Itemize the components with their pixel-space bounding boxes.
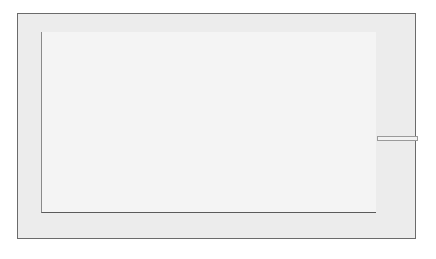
chart-frame (17, 13, 416, 239)
stacked-area-svg (42, 32, 376, 213)
x-axis-tick-labels (41, 214, 376, 254)
plot-area (41, 32, 376, 213)
chart-legend (377, 136, 418, 141)
report-page (0, 0, 436, 259)
